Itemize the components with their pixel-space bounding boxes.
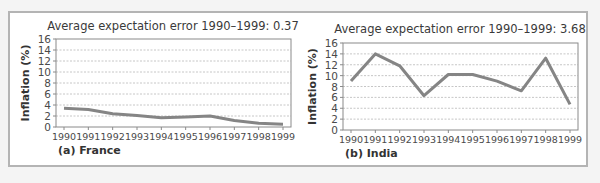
x-tick-label: 1992 [101,131,125,142]
y-tick-label: 0 [331,124,338,136]
x-tick-label: 1991 [363,134,387,145]
x-tick-label: 1994 [149,131,173,142]
x-tick-label: 1997 [509,134,533,145]
x-tick-label: 1996 [485,134,509,145]
x-tick-label: 1991 [76,131,100,142]
x-tick-label: 1999 [271,131,295,142]
y-axis-label: Inflation (%) [306,48,319,125]
y-tick-label: 6 [331,91,338,103]
x-tick-label: 1993 [412,134,436,145]
x-tick-label: 1996 [198,131,222,142]
x-tick-label: 1994 [436,134,460,145]
x-tick-label: 1995 [461,134,485,145]
y-tick-label: 6 [44,88,51,100]
y-tick-label: 12 [38,55,51,67]
y-axis-label: Inflation (%) [19,45,32,122]
y-tick-label: 16 [38,33,52,45]
y-tick-label: 16 [325,37,339,49]
chart-india: Average expectation error 1990–1999: 3.6… [306,22,586,160]
x-tick-label: 1992 [388,134,412,145]
y-tick-label: 10 [38,66,51,78]
y-tick-label: 8 [44,77,51,89]
y-tick-label: 10 [325,70,338,82]
y-tick-label: 4 [44,99,51,111]
y-tick-label: 2 [331,113,338,125]
panel-label: (a) France [58,144,121,157]
x-tick-label: 1998 [247,131,271,142]
x-tick-label: 1990 [339,134,363,145]
y-tick-label: 4 [331,102,338,114]
chart-title: Average expectation error 1990–1999: 0.3… [47,19,298,33]
x-tick-label: 1995 [174,131,198,142]
x-tick-label: 1997 [222,131,246,142]
y-tick-label: 14 [325,48,339,60]
y-tick-label: 0 [44,121,51,133]
x-tick-label: 1990 [52,131,76,142]
y-tick-label: 8 [331,81,338,93]
y-tick-label: 12 [325,59,338,71]
panel-label: (b) India [345,147,398,160]
y-tick-label: 14 [38,44,52,56]
y-tick-label: 2 [44,110,51,122]
x-tick-label: 1993 [125,131,149,142]
chart-france: Average expectation error 1990–1999: 0.3… [19,19,299,157]
x-tick-label: 1998 [534,134,558,145]
series-line-india [351,54,570,105]
charts-canvas: Average expectation error 1990–1999: 0.3… [0,0,600,183]
chart-title: Average expectation error 1990–1999: 3.6… [334,22,585,36]
x-tick-label: 1999 [558,134,582,145]
